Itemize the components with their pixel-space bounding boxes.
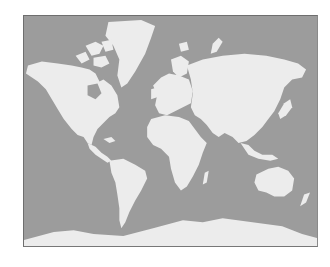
world-map-graphic: [24, 16, 317, 246]
world-map: [23, 15, 318, 247]
central-america: [88, 143, 112, 163]
scandinavia: [171, 56, 189, 78]
europe: [153, 74, 193, 116]
arctic-archipelago: [76, 40, 114, 68]
antarctica: [24, 218, 317, 246]
south-america: [109, 159, 147, 228]
madagascar: [203, 171, 209, 185]
greenland: [105, 20, 155, 87]
caribbean: [103, 137, 115, 143]
africa: [147, 115, 207, 190]
australia: [254, 167, 294, 197]
north-america: [26, 62, 119, 145]
new-zealand: [300, 192, 310, 206]
british-isles: [151, 87, 157, 99]
novaya-zemlya: [211, 38, 223, 54]
japan: [278, 99, 292, 119]
asia: [187, 54, 306, 143]
southeast-asia: [241, 143, 279, 161]
svalbard: [179, 42, 189, 52]
